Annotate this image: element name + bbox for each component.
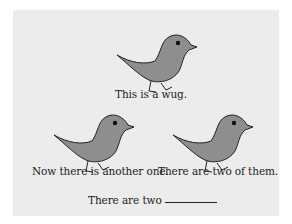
fill-in-prompt: There are two [88, 194, 217, 206]
wug-bird-icon [46, 103, 136, 173]
prompt-text: There are two [88, 194, 162, 206]
wug-bird-icon [109, 23, 199, 93]
wug-test-panel: This is a wug. Now there is another one.… [13, 10, 279, 216]
caption-wug-top: This is a wug. [115, 88, 187, 100]
wug-bird-icon [165, 103, 255, 173]
caption-wug-left: Now there is another one. [32, 165, 169, 177]
answer-blank [165, 202, 217, 203]
caption-wug-right: There are two of them. [158, 165, 278, 177]
